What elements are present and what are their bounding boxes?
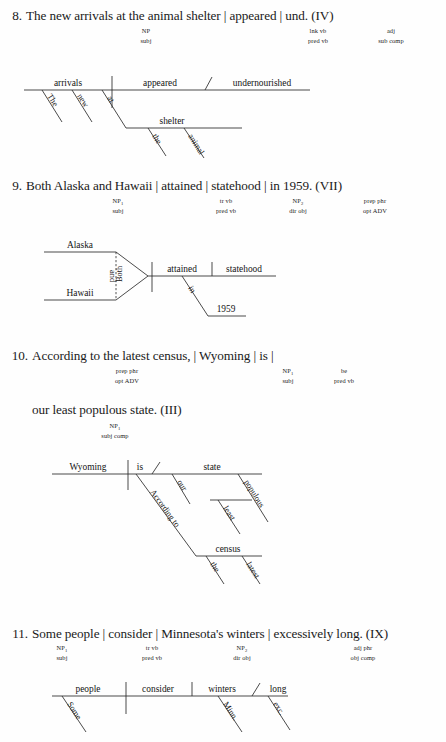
annot-label: NP1 [57,644,68,651]
sentence-text-10b: our least populous state. (III) [32,402,182,418]
annot-label-2: subj [124,37,168,44]
annot-label-2: subj [98,207,138,214]
annot-label-2: subj [268,377,308,384]
item-number-8: 8. [0,8,22,24]
diagram-label-modifier-minn: Minn. [221,700,240,722]
diagram-label-modifier-exc: exc. [271,700,286,716]
diagram-label-preposition-according-to: According to [148,488,181,529]
annotation-10-predvb: be pred vb [322,367,366,384]
diagram-label-preposition-at: at [105,94,116,104]
item-number-10: 10. [0,348,28,364]
sentence-text-10: According to the latest census, | Wyomin… [32,348,274,364]
sentence-diagram-11: people consider winters long Some Minn. … [0,670,446,742]
annot-label-2: opt ADV [348,207,402,214]
diagram-label-verb: consider [142,684,175,694]
annot-label: NP1 [110,422,121,429]
diagram-label-prep-object: shelter [160,116,186,126]
annot-label: NP1 [283,367,294,374]
annot-label-2: dir obj [222,654,262,661]
sentence-diagram-9: Alaska Hawaii Both and attained statehoo… [0,230,446,326]
annot-label: tr vb [220,197,232,204]
sentence-diagram-8: arrivals appeared undernourished The new… [0,68,446,160]
annotation-9-dirobj: NP2 dir obj [278,197,318,214]
diagram-label-modifier-latest: latest [244,560,261,580]
item-number-11: 11. [0,626,28,642]
diagram-label-modifier-animal: animal [186,132,206,157]
annot-label-2: subj [42,654,82,661]
annot-label-2: pred vb [204,207,248,214]
annotation-9-predvb: tr vb pred vb [204,197,248,214]
diagram-label-complement: undernourished [233,78,292,88]
sentence-diagram-10: Wyoming is state According to our populo… [0,452,446,602]
annot-label-2: obj comp [338,654,388,661]
annot-label: NP2 [237,644,248,651]
annot-label-2: pred vb [130,654,174,661]
diagram-label-verb: attained [167,264,197,274]
annot-label: adj phr [354,644,373,651]
annotation-8-subcomp: adj sub comp [366,27,416,44]
exercise-item-8: 8. The new arrivals at the animal shelte… [0,8,446,26]
diagram-label-prep-object: 1959 [217,304,236,314]
annotation-11-objcomp: adj phr obj comp [338,644,388,661]
sentence-line-10b: our least populous state. (III) [0,402,446,420]
annot-label: NP [142,27,150,34]
diagram-label-object: winters [208,684,236,694]
exercise-item-10: 10. According to the latest census, | Wy… [0,348,446,420]
annot-label: adj [387,27,395,34]
sentence-text-8: The new arrivals at the animal shelter |… [26,8,334,24]
annot-label-2: sub comp [366,37,416,44]
diagram-label-subject: arrivals [54,78,82,88]
annotation-8-predvb: lnk vb pred vb [296,27,340,44]
diagram-label-subject-b: Hawaii [66,288,93,298]
diagram-label-modifier-populous: populous [242,478,266,509]
diagram-label-complement: state [203,462,220,472]
annotation-9-subj: NP1 subj [98,197,138,214]
diagram-label-correlative-and: and [108,270,117,283]
diagram-label-subject: Wyoming [70,462,107,472]
diagram-label-modifier-some: Some [65,700,83,721]
sentence-line-8: 8. The new arrivals at the animal shelte… [0,8,446,26]
diagram-label-prep-object: census [216,544,241,554]
annot-label-2: pred vb [322,377,366,384]
diagram-label-object: statehood [226,264,262,274]
annot-label: NP2 [293,197,304,204]
diagram-label-subject: people [76,684,101,694]
diagram-label-modifier-the: The [45,92,60,108]
annot-label: tr vb [146,644,158,651]
diagram-label-modifier-least: least [221,504,237,522]
annot-label-2: subj comp [90,432,140,439]
sentence-text-11: Some people | consider | Minnesota's win… [32,626,388,642]
diagram-label-modifier-our: our [175,478,189,492]
annotation-10-subjcomp: NP1 subj comp [90,422,140,439]
annotation-10-subj: NP1 subj [268,367,308,384]
annotation-9-optadv: prep phr opt ADV [348,197,402,214]
annot-label: be [341,367,347,374]
annotation-11-dirobj: NP2 dir obj [222,644,262,661]
annot-label-2: dir obj [278,207,318,214]
item-number-9: 9. [0,178,22,194]
diagram-label-subject-a: Alaska [67,240,94,250]
annot-label: prep phr [364,197,386,204]
annotation-11-predvb: tr vb pred vb [130,644,174,661]
sentence-text-9: Both Alaska and Hawaii | attained | stat… [26,178,342,194]
annot-label: NP1 [113,197,124,204]
exercise-item-11: 11. Some people | consider | Minnesota's… [0,626,446,644]
exercise-item-9: 9. Both Alaska and Hawaii | attained | s… [0,178,446,196]
diagram-label-verb: is [137,462,144,472]
annotation-11-subj: NP1 subj [42,644,82,661]
diagram-label-object-complement: long [270,684,287,694]
annotation-10-optadv: prep phr opt ADV [100,367,154,384]
annot-label: prep phr [116,367,138,374]
sentence-line-11: 11. Some people | consider | Minnesota's… [0,626,446,644]
annot-label-2: opt ADV [100,377,154,384]
annot-label-2: pred vb [296,37,340,44]
sentence-line-10: 10. According to the latest census, | Wy… [0,348,446,366]
annot-label: lnk vb [310,27,327,34]
sentence-line-9: 9. Both Alaska and Hawaii | attained | s… [0,178,446,196]
diagram-label-verb: appeared [143,78,177,88]
diagram-label-modifier-new: new [75,92,91,109]
annotation-8-subj: NP subj [124,27,168,44]
